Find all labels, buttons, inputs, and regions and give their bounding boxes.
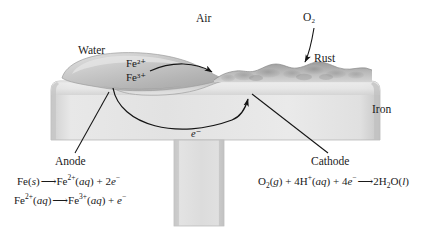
- label-rust: Rust: [314, 53, 335, 65]
- equation-anode-2: Fe2+(aq)⟶Fe3+(aq) + e−: [14, 193, 126, 206]
- label-ferrous-ion: Fe²⁺: [126, 58, 146, 69]
- equation-anode-2-reactant: Fe2+(aq): [14, 194, 51, 206]
- equation-cathode-1: O2(g) + 4H+(aq) + 4e−⟶2H2O(l): [258, 174, 409, 189]
- equation-anode-1-product: Fe2+(aq) + 2e−: [56, 175, 120, 187]
- equation-anode-1-reactant: Fe(s): [17, 175, 40, 187]
- equation-cathode-1-product: 2H2O(l): [373, 175, 409, 187]
- oxygen-leader-arrow: [305, 28, 314, 62]
- label-ferric-ion: Fe³⁺: [126, 72, 146, 83]
- rust-crust: [214, 62, 372, 82]
- label-cathode: Cathode: [311, 156, 349, 168]
- equation-anode-1: Fe(s)⟶Fe2+(aq) + 2e−: [17, 174, 120, 187]
- label-anode: Anode: [55, 156, 86, 168]
- label-water: Water: [78, 45, 105, 57]
- equation-anode-2-product: Fe3+(aq) + e−: [68, 194, 126, 206]
- equation-cathode-1-reactant: O2(g) + 4H+(aq) + 4e−: [258, 175, 357, 187]
- label-iron: Iron: [372, 104, 391, 116]
- label-oxygen: O₂: [303, 12, 315, 24]
- equation-anode-1-arrow: ⟶: [40, 175, 57, 187]
- iron-pedestal: [174, 140, 224, 226]
- label-electron-flow: e⁻: [191, 129, 201, 140]
- equation-cathode-1-arrow: ⟶: [357, 175, 374, 187]
- iron-block: [51, 81, 380, 140]
- corrosion-diagram: Air O₂ Water Rust Iron Fe²⁺ Fe³⁺ e⁻ Anod…: [0, 0, 431, 234]
- equation-anode-2-arrow: ⟶: [51, 194, 68, 206]
- label-air: Air: [196, 13, 211, 25]
